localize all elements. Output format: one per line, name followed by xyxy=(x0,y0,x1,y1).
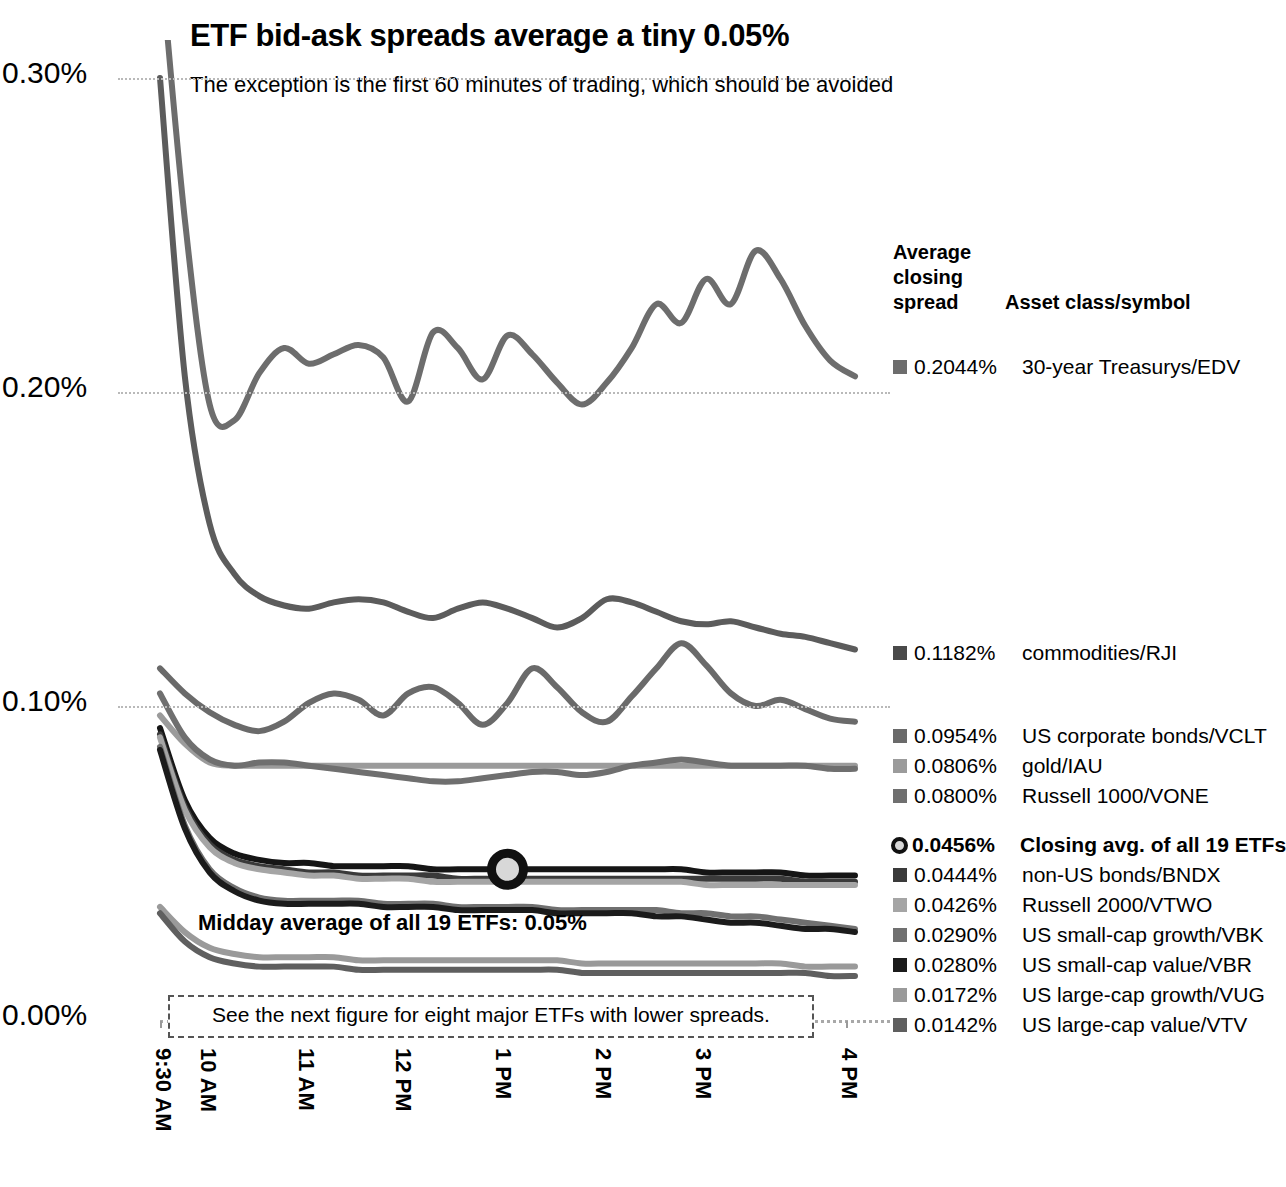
next-figure-note-text: See the next figure for eight major ETFs… xyxy=(168,1003,814,1027)
legend-swatch-icon xyxy=(893,360,907,374)
x-axis-tick-mark xyxy=(160,1021,162,1028)
legend-value: 0.0290% xyxy=(914,923,1022,947)
legend-label: US large-cap growth/VUG xyxy=(1022,983,1265,1007)
midday-average-marker xyxy=(492,853,524,885)
x-axis-tick-label: 10 AM xyxy=(195,1048,221,1112)
legend-swatch-icon xyxy=(893,988,907,1002)
legend-label: commodities/RJI xyxy=(1022,641,1177,665)
legend-value: 0.0444% xyxy=(914,863,1022,887)
legend-row[interactable]: 0.0290%US small-cap growth/VBK xyxy=(893,923,1264,947)
legend-value: 0.0280% xyxy=(914,953,1022,977)
y-axis-tick-label: 0.30% xyxy=(2,56,87,90)
x-axis-tick-mark xyxy=(846,1021,848,1028)
legend-value: 0.0142% xyxy=(914,1013,1022,1037)
legend-value: 0.0954% xyxy=(914,724,1022,748)
legend-row[interactable]: 0.0954%US corporate bonds/VCLT xyxy=(893,724,1267,748)
legend-label: Closing avg. of all 19 ETFs xyxy=(1020,833,1286,857)
legend-label: US small-cap value/VBR xyxy=(1022,953,1252,977)
legend-value: 0.0456% xyxy=(912,833,1020,857)
legend-swatch-icon xyxy=(893,898,907,912)
legend-row[interactable]: 0.1182%commodities/RJI xyxy=(893,641,1177,665)
legend-value: 0.0426% xyxy=(914,893,1022,917)
legend-swatch-icon xyxy=(893,729,907,743)
legend-header-line3: spread xyxy=(893,290,959,315)
legend-value: 0.0800% xyxy=(914,784,1022,808)
legend-label: US small-cap growth/VBK xyxy=(1022,923,1264,947)
gridline xyxy=(118,706,890,708)
legend-label: Russell 1000/VONE xyxy=(1022,784,1209,808)
legend-label: Russell 2000/VTWO xyxy=(1022,893,1212,917)
legend-swatch-icon xyxy=(893,1018,907,1032)
series-halo xyxy=(160,643,855,731)
legend-header-line1: Average xyxy=(893,240,971,265)
legend-value: 0.0172% xyxy=(914,983,1022,1007)
legend-row[interactable]: 0.2044%30-year Treasurys/EDV xyxy=(893,355,1240,379)
legend-label: 30-year Treasurys/EDV xyxy=(1022,355,1240,379)
legend-row[interactable]: 0.0456%Closing avg. of all 19 ETFs xyxy=(893,833,1286,857)
x-axis-tick-label: 1 PM xyxy=(490,1048,516,1099)
legend-row[interactable]: 0.0806%gold/IAU xyxy=(893,754,1103,778)
legend-swatch-icon xyxy=(893,759,907,773)
x-axis-tick-label: 3 PM xyxy=(690,1048,716,1099)
legend-header-asset-class: Asset class/symbol xyxy=(1005,290,1191,315)
y-axis-tick-label: 0.20% xyxy=(2,370,87,404)
x-axis-tick-label: 4 PM xyxy=(836,1048,862,1099)
legend-ring-marker-icon xyxy=(891,837,908,854)
gridline xyxy=(118,78,890,80)
legend-row[interactable]: 0.0444%non-US bonds/BNDX xyxy=(893,863,1220,887)
gridline xyxy=(118,392,890,394)
legend-label: gold/IAU xyxy=(1022,754,1103,778)
series-line xyxy=(160,0,855,427)
legend-label: US large-cap value/VTV xyxy=(1022,1013,1247,1037)
x-axis-tick-label: 11 AM xyxy=(293,1048,319,1111)
legend-label: US corporate bonds/VCLT xyxy=(1022,724,1267,748)
x-axis-tick-label: 2 PM xyxy=(590,1048,616,1099)
legend-swatch-icon xyxy=(893,928,907,942)
series-line xyxy=(160,643,855,731)
legend-swatch-icon xyxy=(893,958,907,972)
legend-row[interactable]: 0.0426%Russell 2000/VTWO xyxy=(893,893,1212,917)
x-axis-tick-label: 12 PM xyxy=(390,1048,416,1112)
y-axis-tick-label: 0.10% xyxy=(2,684,87,718)
legend-value: 0.0806% xyxy=(914,754,1022,778)
midday-average-annotation: Midday average of all 19 ETFs: 0.05% xyxy=(198,910,587,936)
legend-row[interactable]: 0.0172%US large-cap growth/VUG xyxy=(893,983,1265,1007)
legend-value: 0.1182% xyxy=(914,641,1022,665)
legend-swatch-icon xyxy=(893,646,907,660)
legend-swatch-icon xyxy=(893,868,907,882)
legend-value: 0.2044% xyxy=(914,355,1022,379)
x-axis-tick-label: 9:30 AM xyxy=(150,1048,176,1132)
legend-row[interactable]: 0.0800%Russell 1000/VONE xyxy=(893,784,1209,808)
y-axis-tick-label: 0.00% xyxy=(2,998,87,1032)
legend-label: non-US bonds/BNDX xyxy=(1022,863,1220,887)
legend-swatch-icon xyxy=(893,789,907,803)
legend-row[interactable]: 0.0280%US small-cap value/VBR xyxy=(893,953,1252,977)
legend-header-line2: closing xyxy=(893,265,963,290)
legend-row[interactable]: 0.0142%US large-cap value/VTV xyxy=(893,1013,1247,1037)
